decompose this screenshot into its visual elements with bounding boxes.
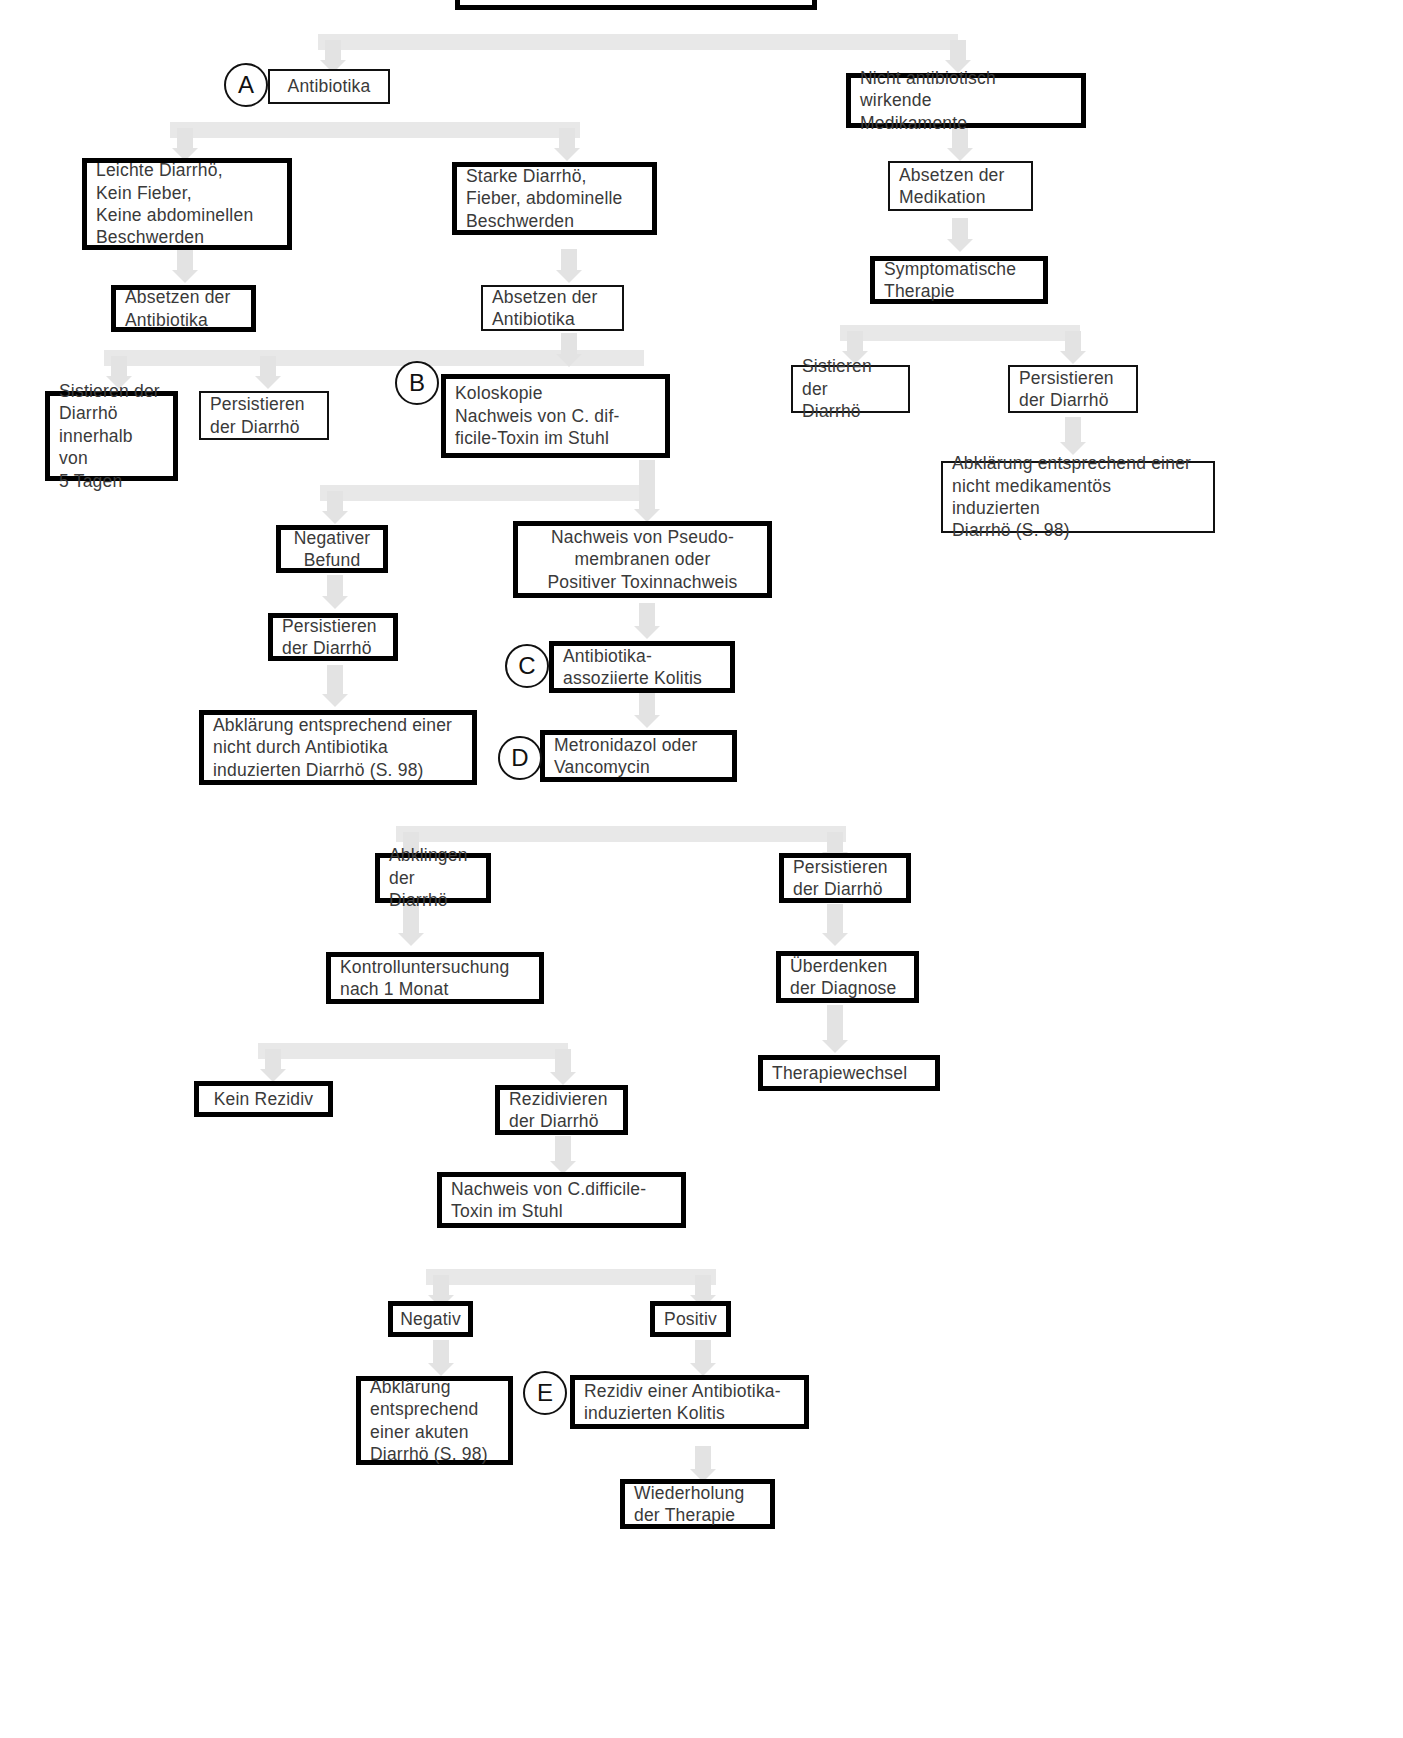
node-persistieren-der-diarrhoe-rechts[interactable]: Persistieren der Diarrhö (1008, 365, 1138, 413)
connector-bar-antibiotika-split (170, 122, 580, 138)
node-positiv[interactable]: Positiv (650, 1301, 731, 1337)
connector-arrow-to-persistieren-links (255, 356, 281, 388)
node-kontrolluntersuchung[interactable]: Kontrolluntersuchung nach 1 Monat (326, 952, 544, 1004)
connector-arrow-to-abklaerung-nicht-ab (322, 665, 348, 707)
node-abklaerung-nicht-medikamentoes[interactable]: Abklärung entsprechend einer nicht medik… (941, 461, 1215, 533)
connector-arrow-to-abklaerung-nicht-med (1060, 417, 1086, 455)
node-persistieren-der-diarrhoe-unten[interactable]: Persistieren der Diarrhö (779, 853, 911, 903)
node-rezidivieren-der-diarrhoe[interactable]: Rezidivieren der Diarrhö (495, 1085, 628, 1135)
connector-bar-metronidazol-split (396, 826, 846, 842)
connector-arrow-to-starke (554, 128, 580, 160)
badge-d: D (498, 736, 542, 780)
connector-arrow-to-koloskopie (556, 333, 582, 367)
connector-bar-symptomatische-split (840, 325, 1080, 341)
node-ueberdenken-der-diagnose[interactable]: Überdenken der Diagnose (776, 951, 919, 1003)
node-absetzen-der-antibiotika-links[interactable]: Absetzen der Antibiotika (111, 285, 256, 332)
node-persistieren-der-diarrhoe-mitte[interactable]: Persistieren der Diarrhö (268, 613, 398, 661)
node-nachweis-c-difficile-toxin[interactable]: Nachweis von C.difficile- Toxin im Stuhl (437, 1172, 686, 1228)
node-therapiewechsel[interactable]: Therapiewechsel (758, 1055, 940, 1091)
connector-arrow-to-symptomatische (947, 218, 973, 252)
flowchart-canvas: A Antibiotika Nicht antibiotisch wirkend… (0, 0, 1403, 1738)
connector-arrow-to-rezidivieren (550, 1049, 576, 1085)
connector-arrow-to-absetzen-ab-mitte (556, 249, 582, 283)
node-wiederholung-der-therapie[interactable]: Wiederholung der Therapie (620, 1479, 775, 1529)
node-sistieren-innerhalb-5-tagen[interactable]: Sistieren der Diarrhö innerhalb von 5 Ta… (45, 391, 178, 481)
node-sistieren-der-diarrhoe-rechts[interactable]: Sistieren der Diarrhö (791, 365, 910, 413)
node-antibiotika-assoziierte-kolitis[interactable]: Antibiotika- assoziierte Kolitis (549, 641, 735, 693)
connector-arrow-to-persistieren-mitte (322, 575, 348, 609)
node-negativer-befund[interactable]: Negativer Befund (276, 525, 388, 573)
badge-b: B (395, 361, 439, 405)
node-absetzen-der-antibiotika-mitte[interactable]: Absetzen der Antibiotika (481, 285, 624, 331)
node-absetzen-der-medikation[interactable]: Absetzen der Medikation (888, 161, 1033, 211)
node-starke-diarrhoe[interactable]: Starke Diarrhö, Fieber, abdominelle Besc… (452, 162, 657, 235)
node-pseudomembranen[interactable]: Nachweis von Pseudo- membranen oder Posi… (513, 521, 772, 598)
node-antibiotika[interactable]: Antibiotika (268, 69, 390, 104)
node-leichte-diarrhoe[interactable]: Leichte Diarrhö, Kein Fieber, Keine abdo… (82, 158, 292, 250)
connector-bar-toxin-split (426, 1269, 716, 1285)
node-negativ[interactable]: Negativ (388, 1301, 473, 1337)
connector-arrow-to-rezidiv-kolitis (690, 1340, 716, 1376)
node-abklaerung-akute-diarrhoe[interactable]: Abklärung entsprechend einer akuten Diar… (356, 1376, 513, 1465)
node-top[interactable] (455, 0, 817, 10)
node-abklingen-der-diarrhoe[interactable]: Abklingen der Diarrhö (375, 853, 491, 903)
connector-arrow-to-kein-rezidiv (260, 1049, 286, 1081)
connector-arrow-to-abklaerung-akut (428, 1340, 454, 1376)
connector-arrow-to-ueberdenken (822, 904, 848, 946)
connector-arrow-to-therapiewechsel (822, 1005, 848, 1053)
connector-arrow-to-wiederholung (690, 1446, 716, 1482)
connector-arrow-to-ab-kolitis (634, 603, 660, 639)
node-metronidazol-oder-vancomycin[interactable]: Metronidazol oder Vancomycin (540, 730, 737, 782)
connector-arrow-to-pseudomembranen (634, 460, 660, 522)
node-symptomatische-therapie[interactable]: Symptomatische Therapie (870, 256, 1048, 304)
connector-arrow-to-nachweis-toxin (550, 1136, 576, 1174)
connector-bar-kontrolle-split (258, 1043, 568, 1059)
node-kein-rezidiv[interactable]: Kein Rezidiv (194, 1081, 333, 1117)
connector-bar-koloskopie-split (320, 485, 650, 501)
node-rezidiv-antibiotika-kolitis[interactable]: Rezidiv einer Antibiotika- induzierten K… (570, 1375, 809, 1429)
connector-arrow-to-absetzen-ab-links (172, 249, 198, 283)
node-nicht-antibiotisch-wirkende-medikamente[interactable]: Nicht antibiotisch wirkende Medikamente (846, 73, 1086, 128)
connector-arrow-to-leichte (172, 128, 198, 160)
node-persistieren-der-diarrhoe-links[interactable]: Persistieren der Diarrhö (199, 391, 329, 440)
badge-c: C (505, 644, 549, 688)
badge-e: E (523, 1371, 567, 1415)
connector-arrow-to-negativer-befund (322, 491, 348, 523)
node-abklaerung-nicht-durch-antibiotika[interactable]: Abklärung entsprechend einer nicht durch… (199, 710, 477, 785)
node-koloskopie[interactable]: Koloskopie Nachweis von C. dif- ficile-T… (441, 374, 670, 458)
connector-arrow-to-metronidazol (634, 692, 660, 728)
connector-bar-top (318, 34, 958, 50)
connector-arrow-to-antibiotika (320, 40, 346, 72)
connector-arrow-to-persistieren-rechts (1060, 331, 1086, 363)
badge-a: A (224, 63, 268, 107)
